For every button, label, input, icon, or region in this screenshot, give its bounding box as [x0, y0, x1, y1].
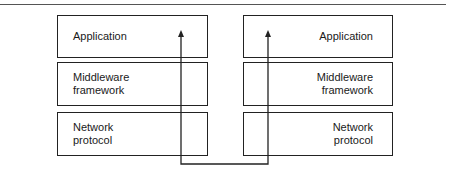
left-arrowhead-icon: [178, 30, 184, 37]
connector-arrow-path: [0, 0, 453, 173]
right-arrowhead-icon: [265, 30, 271, 37]
